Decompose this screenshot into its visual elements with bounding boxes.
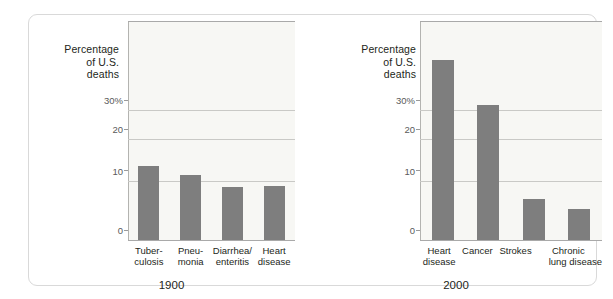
y-tick-label: 0 — [118, 225, 123, 236]
category-label-line: Strokes — [496, 245, 534, 256]
category-labels-2000: Heart disease Cancer Strokes Chronic lun… — [420, 245, 602, 267]
category-label-cancer: Cancer — [458, 245, 496, 267]
plot-area-2000: 30% 20 10 0 Unlike many leading killers … — [420, 21, 602, 241]
category-label-line: Heart — [420, 245, 458, 256]
plot-area-1900: 30% 20 10 0 Tuber- culosis Pneu- monia — [128, 21, 295, 241]
category-label-line: Chronic — [535, 245, 602, 256]
bar-heart-disease[interactable] — [432, 60, 454, 240]
y-axis-caption-line: deaths — [330, 68, 416, 81]
y-tick-10: 10 — [404, 165, 415, 176]
bar-diarrhea-enteritis[interactable] — [222, 187, 243, 240]
category-label-chronic-lung-disease: Chronic lung disease — [535, 245, 602, 267]
chart-panel-2000: Percentage of U.S. deaths 30% 20 10 0 Un… — [314, 15, 598, 287]
y-axis-caption-line: of U.S. — [33, 56, 119, 69]
bar-group-2000 — [420, 22, 602, 240]
y-axis-caption-line: deaths — [33, 68, 119, 81]
y-tick-20: 20 — [112, 124, 123, 135]
y-tick-10: 10 — [112, 165, 123, 176]
y-tick-label: 30% — [396, 95, 415, 106]
y-axis-caption-line: Percentage — [33, 43, 119, 56]
bar-cancer[interactable] — [477, 105, 499, 241]
y-axis-caption-1900: Percentage of U.S. deaths — [33, 43, 119, 81]
bar-slot — [420, 22, 466, 240]
bar-tuberculosis[interactable] — [138, 166, 159, 240]
category-label-line: enteritis — [212, 256, 254, 267]
y-tick-label: 30% — [104, 95, 123, 106]
y-axis-caption-2000: Percentage of U.S. deaths — [330, 43, 416, 81]
figure-frame: Percentage of U.S. deaths 30% 20 10 0 — [28, 14, 597, 286]
category-label-strokes: Strokes — [496, 245, 534, 267]
x-axis-title-2000: 2000 — [314, 279, 598, 291]
bar-heart-disease[interactable] — [264, 186, 285, 240]
bar-group-1900 — [128, 22, 295, 240]
bar-pneumonia[interactable] — [180, 175, 201, 240]
category-label-line: monia — [170, 256, 212, 267]
category-label-line: Cancer — [458, 245, 496, 256]
y-tick-label: 20 — [112, 124, 123, 135]
bar-strokes[interactable] — [523, 199, 545, 240]
y-tick-label: 10 — [404, 165, 415, 176]
category-label-line: disease — [420, 256, 458, 267]
category-label-line: Pneu- — [170, 245, 212, 256]
category-label-line: Heart — [253, 245, 295, 256]
x-axis-title-1900: 1900 — [29, 279, 314, 291]
y-axis-caption-line: Percentage — [330, 43, 416, 56]
y-tick-0: 0 — [118, 225, 123, 236]
y-tick-label: 10 — [112, 165, 123, 176]
category-label-heart-disease: Heart disease — [420, 245, 458, 267]
axis-baseline — [420, 240, 602, 241]
y-tick-label: 20 — [404, 124, 415, 135]
category-label-line: Tuber- — [128, 245, 170, 256]
category-label-pneumonia: Pneu- monia — [170, 245, 212, 267]
y-tick-30: 30% — [396, 95, 415, 106]
y-tick-20: 20 — [404, 124, 415, 135]
axis-baseline — [128, 240, 295, 241]
bar-slot — [557, 22, 603, 240]
y-tick-30: 30% — [104, 95, 123, 106]
bar-slot — [128, 22, 170, 240]
bar-slot — [253, 22, 295, 240]
category-labels-1900: Tuber- culosis Pneu- monia Diarrhea/ ent… — [128, 245, 295, 267]
category-label-tuberculosis: Tuber- culosis — [128, 245, 170, 267]
category-label-line: culosis — [128, 256, 170, 267]
category-label-line: lung disease — [535, 256, 602, 267]
category-label-diarrhea-enteritis: Diarrhea/ enteritis — [212, 245, 254, 267]
category-label-line: disease — [253, 256, 295, 267]
y-tick-label: 0 — [410, 225, 415, 236]
y-tick-0: 0 — [410, 225, 415, 236]
y-axis-caption-line: of U.S. — [330, 56, 416, 69]
chart-panel-1900: Percentage of U.S. deaths 30% 20 10 0 — [29, 15, 314, 287]
bar-slot — [212, 22, 254, 240]
category-label-line: Diarrhea/ — [212, 245, 254, 256]
category-label-heart-disease: Heart disease — [253, 245, 295, 267]
bar-slot — [511, 22, 557, 240]
bar-slot — [466, 22, 512, 240]
bar-chronic-lung-disease[interactable] — [568, 209, 590, 240]
bar-slot — [170, 22, 212, 240]
